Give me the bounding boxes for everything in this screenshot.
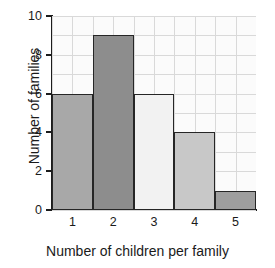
bar-1: [52, 94, 93, 210]
y-tick-mark: [46, 15, 52, 17]
x-tick-label-1: 1: [52, 216, 92, 229]
y-tick-label: 4: [14, 126, 42, 139]
y-tick-mark: [46, 131, 52, 133]
y-tick-label: 2: [14, 165, 42, 178]
grid-line-horizontal: [52, 55, 256, 56]
bar-4: [174, 132, 215, 210]
y-tick-mark: [46, 54, 52, 56]
y-tick-mark: [46, 170, 52, 172]
bar-5: [215, 191, 256, 210]
grid-line-horizontal: [52, 16, 256, 17]
x-tick-label-3: 3: [134, 216, 174, 229]
grid-line-horizontal: [52, 74, 256, 75]
plot-area: [52, 16, 256, 210]
x-tick-label-5: 5: [216, 216, 256, 229]
y-tick-mark: [46, 93, 52, 95]
y-tick-label: 10: [14, 10, 42, 23]
bar-3: [134, 94, 175, 210]
y-tick-label: 8: [14, 49, 42, 62]
grid-line-horizontal: [52, 210, 256, 211]
y-tick-label: 6: [14, 88, 42, 101]
x-tick-label-2: 2: [93, 216, 133, 229]
grid-line-horizontal: [52, 35, 256, 36]
x-tick-label-4: 4: [175, 216, 215, 229]
x-axis-title: Number of children per family: [0, 243, 275, 259]
y-tick-mark: [46, 209, 52, 211]
bar-chart-figure: Number of families 0246810 12345 Number …: [0, 0, 275, 268]
bar-2: [93, 35, 134, 210]
y-tick-label: 0: [14, 204, 42, 217]
